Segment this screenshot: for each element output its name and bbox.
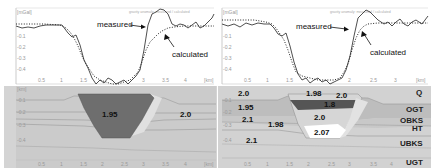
density-label: 1.98 — [268, 120, 284, 129]
depth-tick: -0.3 — [223, 122, 232, 128]
x-tick: 2.5 — [121, 161, 128, 167]
x-tick: 3 — [394, 77, 397, 83]
left-density-section: 1.95 2.0 [km] -0.1 -0.2 -0.3 -0.4 0.5 1 … — [4, 86, 217, 168]
unit-label-ogt: OGT — [406, 105, 423, 114]
right-density-section: 2.0 1.98 2.0 1.8 1.95 2.0 2.1 1.98 2.07 … — [218, 86, 431, 168]
x-tick: 3 — [348, 161, 351, 167]
y-tick: -0.4 — [223, 66, 232, 72]
left-model-panel: [mGal] -0.1 -0.2 -0.3 -0.4 0.5 1 1.5 3 3… — [4, 0, 217, 168]
x-tick: 1.5 — [80, 161, 87, 167]
y-unit-label: [mGal] — [223, 9, 238, 15]
measured-annotation: measured — [296, 22, 332, 31]
depth-tick: -0.4 — [223, 137, 232, 143]
x-tick: 1 — [266, 161, 269, 167]
density-label: 2.07 — [314, 128, 330, 137]
x-tick: 2 — [307, 161, 310, 167]
density-label: 2.0 — [238, 89, 250, 98]
x-tick: 3 — [142, 77, 145, 83]
density-label: 2.1 — [246, 136, 258, 145]
calculated-annotation: calculated — [172, 50, 208, 59]
x-tick: 2 — [348, 77, 351, 83]
depth-tick: -0.2 — [223, 109, 232, 115]
y-tick: -0.3 — [223, 55, 232, 61]
x-tick: 1 — [266, 77, 269, 83]
x-tick: 0.5 — [244, 161, 251, 167]
density-label: 2.0 — [314, 113, 326, 122]
x-tick: 3.5 — [162, 77, 169, 83]
x-tick: 1 — [60, 77, 63, 83]
x-tick: 0.5 — [244, 77, 251, 83]
density-label: 2.1 — [242, 115, 254, 124]
depth-tick: -0.1 — [17, 97, 26, 103]
x-tick: 0.5 — [38, 161, 45, 167]
x-tick: 3.5 — [162, 161, 169, 167]
y-tick: -0.4 — [17, 66, 26, 72]
right-gravity-profile-chart: [mGal] -0.1 -0.2 -0.3 -0.4 0.5 1 1.5 2 2… — [218, 0, 431, 86]
y-tick: -0.3 — [17, 55, 26, 61]
y-tick: -0.2 — [223, 44, 232, 50]
x-unit-label: [km] — [416, 77, 426, 83]
x-tick: 1.5 — [80, 77, 87, 83]
measured-annotation: measured — [97, 20, 133, 29]
x-unit-label: [km] — [204, 77, 214, 83]
depth-tick: -0.3 — [17, 122, 26, 128]
depth-unit-label: [km] — [17, 86, 27, 92]
unit-label-ht: HT — [412, 124, 423, 133]
unit-label-q: Q — [416, 88, 422, 97]
x-tick: 2.5 — [370, 77, 377, 83]
x-tick: 4 — [184, 161, 187, 167]
density-label: 1.95 — [238, 103, 254, 112]
x-tick: 1.5 — [286, 161, 293, 167]
density-label: 2.0 — [336, 91, 348, 100]
legend-text: gravity anomaly: measured / calculated — [330, 10, 391, 14]
y-tick: -0.2 — [17, 44, 26, 50]
x-tick: 0.5 — [38, 77, 45, 83]
x-tick: 3.5 — [370, 161, 377, 167]
y-unit-label: [mGal] — [17, 9, 32, 15]
legend-text: gravity anomaly: measured / calculated — [129, 10, 190, 14]
y-tick: -0.1 — [17, 33, 26, 39]
x-tick: 3 — [142, 161, 145, 167]
x-tick: 2.5 — [328, 161, 335, 167]
calculated-annotation: calculated — [370, 48, 406, 57]
density-label: 1.98 — [306, 89, 322, 98]
x-tick: 4 — [390, 161, 393, 167]
density-label: 1.95 — [102, 110, 118, 119]
density-label: 2.0 — [180, 110, 192, 119]
depth-tick: -0.1 — [223, 97, 232, 103]
x-tick: 1 — [60, 161, 63, 167]
y-tick: -0.1 — [223, 33, 232, 39]
x-tick: 2 — [101, 161, 104, 167]
unit-label-ubks: UBKS — [400, 139, 423, 148]
density-label: 1.8 — [324, 100, 336, 109]
unit-label-ugt: UGT — [406, 158, 423, 167]
x-tick: 4 — [184, 77, 187, 83]
depth-tick: -0.4 — [17, 137, 26, 143]
left-gravity-profile-chart: [mGal] -0.1 -0.2 -0.3 -0.4 0.5 1 1.5 3 3… — [4, 0, 217, 86]
right-model-panel: [mGal] -0.1 -0.2 -0.3 -0.4 0.5 1 1.5 2 2… — [218, 0, 431, 168]
x-unit-label: [km] — [204, 161, 214, 167]
x-tick: 1.5 — [286, 77, 293, 83]
depth-tick: -0.2 — [17, 109, 26, 115]
